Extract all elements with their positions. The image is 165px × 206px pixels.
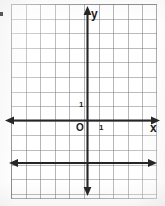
origin-label: O <box>76 123 84 133</box>
plotted-line-series <box>9 159 157 167</box>
y-axis <box>84 6 92 196</box>
x-unit-tick-label: 1 <box>99 124 103 132</box>
y-axis-label: y <box>91 8 98 20</box>
y-unit-tick-label: 1 <box>79 101 83 109</box>
coordinate-plane-figure: y x O 1 1 <box>0 0 165 206</box>
x-axis-label: x <box>150 122 157 134</box>
